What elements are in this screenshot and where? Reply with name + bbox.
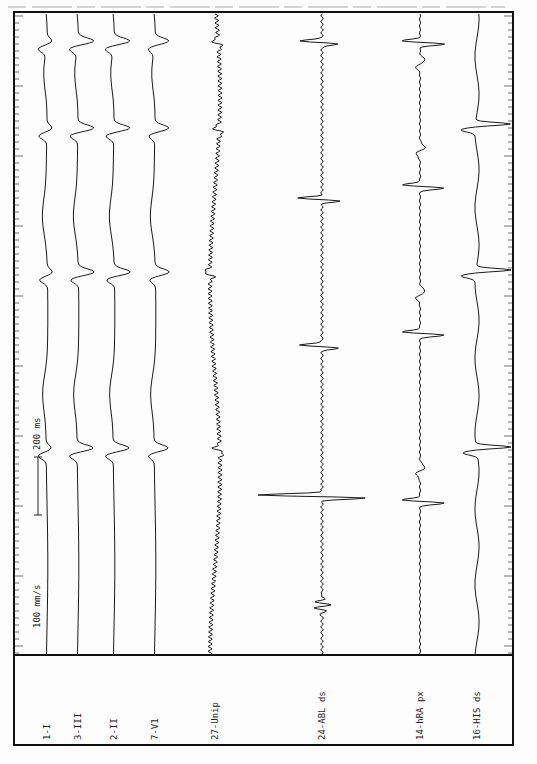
channel-label: 24-ABL ds bbox=[317, 691, 327, 740]
channel-label: 2-II bbox=[109, 718, 119, 740]
channel-label: 3-III bbox=[73, 713, 83, 740]
scale-bar-label: 200 ms bbox=[32, 417, 42, 450]
trace-16-his-ds bbox=[461, 14, 511, 654]
trace-2-ii bbox=[106, 14, 131, 654]
channel-label: 16-HIS ds bbox=[472, 691, 482, 740]
channel-label: 7-V1 bbox=[150, 718, 160, 740]
channel-traces bbox=[38, 14, 511, 654]
trace-27-unip bbox=[205, 14, 224, 654]
scale-bar-200ms: 200 ms bbox=[32, 417, 42, 515]
left-time-ticks bbox=[15, 16, 23, 653]
channel-label: 27-Unip bbox=[210, 702, 220, 740]
paper-speed-label: 100 mm/s bbox=[32, 585, 42, 628]
trace-1-i bbox=[38, 14, 52, 654]
trace-3-iii bbox=[70, 14, 95, 654]
ecg-tracing-canvas: 200 ms 100 mm/s 1-I3-III2-II7-V127-Unip2… bbox=[0, 0, 537, 764]
right-time-ticks bbox=[504, 16, 512, 653]
trace-24-abl-ds bbox=[258, 14, 365, 654]
channel-labels: 1-I3-III2-II7-V127-Unip24-ABL ds14-hRA p… bbox=[42, 691, 482, 740]
channel-label: 1-I bbox=[42, 724, 52, 740]
channel-label: 14-hRA px bbox=[415, 691, 425, 740]
trace-14-hra-px bbox=[402, 14, 444, 654]
strip-frame bbox=[14, 12, 513, 745]
ecg-strip-page: 200 ms 100 mm/s 1-I3-III2-II7-V127-Unip2… bbox=[0, 0, 537, 764]
trace-7-v1 bbox=[149, 14, 170, 654]
